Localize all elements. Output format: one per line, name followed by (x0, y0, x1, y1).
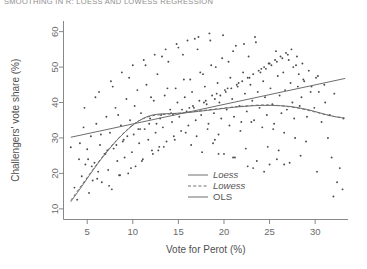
data-point (283, 164, 285, 166)
data-point (86, 148, 88, 150)
data-point (129, 119, 131, 121)
data-point (229, 77, 231, 79)
data-point (277, 75, 279, 77)
data-point (153, 100, 155, 102)
data-point (94, 96, 96, 98)
data-point (302, 79, 304, 81)
data-point (230, 87, 232, 89)
data-point (158, 146, 160, 148)
data-point (203, 102, 205, 104)
data-point (308, 70, 310, 72)
legend-item-loess[interactable]: Loess (188, 169, 239, 180)
data-point (212, 142, 214, 144)
data-point (83, 126, 85, 128)
data-point (278, 149, 280, 151)
data-point (237, 86, 239, 88)
data-point (171, 121, 173, 123)
data-point (303, 80, 305, 82)
data-point (110, 80, 112, 82)
data-point (97, 171, 99, 173)
data-point (243, 43, 245, 45)
data-point (198, 36, 200, 38)
data-point (204, 86, 206, 88)
data-point (189, 79, 191, 81)
data-point (136, 89, 138, 91)
data-point (228, 61, 230, 63)
data-point (105, 116, 107, 118)
data-point (241, 80, 243, 82)
data-point (226, 109, 228, 111)
data-point (180, 130, 182, 132)
data-point (113, 148, 115, 150)
data-point (270, 87, 272, 89)
data-point (167, 87, 169, 89)
data-point (247, 77, 249, 79)
x-axis-title: Vote for Perot (%) (166, 244, 245, 255)
data-point (166, 141, 168, 143)
data-point (269, 164, 271, 166)
data-point (225, 91, 227, 93)
data-point (149, 118, 151, 120)
x-tick-label: 30 (310, 226, 321, 237)
data-point (108, 185, 110, 187)
data-point (253, 119, 255, 121)
data-point (248, 56, 250, 58)
data-point (281, 57, 283, 59)
data-point (134, 105, 136, 107)
data-point (187, 125, 189, 127)
data-point (234, 157, 236, 159)
data-point (177, 47, 179, 49)
data-point (286, 109, 288, 111)
y-axis-title: Challengers' vote share (%) (10, 59, 21, 182)
data-point (236, 84, 238, 86)
data-point (187, 40, 189, 42)
data-point (331, 157, 333, 159)
data-point (156, 73, 158, 75)
data-point (107, 169, 109, 171)
data-point (287, 54, 289, 56)
data-point (151, 149, 153, 151)
legend-label: Loess (213, 169, 239, 180)
data-point (239, 130, 241, 132)
data-point (132, 64, 134, 66)
data-point (282, 71, 284, 73)
data-point (214, 98, 216, 100)
data-point (285, 52, 287, 54)
data-point (98, 91, 100, 93)
data-point (164, 94, 166, 96)
curve-loess (71, 105, 345, 201)
data-point (300, 155, 302, 157)
data-point (246, 110, 248, 112)
data-point (115, 107, 117, 109)
data-point (255, 41, 257, 43)
data-point (79, 142, 81, 144)
data-point (177, 102, 179, 104)
data-point (249, 77, 251, 79)
data-point (88, 192, 90, 194)
data-point (155, 132, 157, 134)
legend-item-ols[interactable]: OLS (188, 191, 232, 202)
data-point (154, 54, 156, 56)
data-point (336, 181, 338, 183)
data-point (235, 45, 237, 47)
data-point (128, 77, 130, 79)
data-point (247, 165, 249, 167)
data-point (318, 91, 320, 93)
data-point (290, 82, 292, 84)
data-point (92, 180, 94, 182)
data-point (214, 139, 216, 141)
data-point (332, 196, 334, 198)
legend[interactable]: LoessLowessOLS (188, 169, 245, 202)
data-point (231, 98, 233, 100)
data-point (263, 66, 265, 68)
data-point (301, 63, 303, 65)
data-point (81, 175, 83, 177)
legend-item-lowess[interactable]: Lowess (188, 180, 245, 191)
data-point (324, 102, 326, 104)
data-point (259, 107, 261, 109)
data-point (73, 187, 75, 189)
data-point (76, 199, 78, 201)
data-point (289, 162, 291, 164)
data-point (175, 87, 177, 89)
data-point (316, 171, 318, 173)
